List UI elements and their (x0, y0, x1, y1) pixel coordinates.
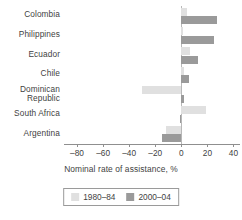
y-axis-category-label: Chile (0, 69, 60, 78)
bar (181, 75, 189, 83)
bar (181, 36, 214, 44)
bar (181, 47, 190, 55)
x-axis-tick (129, 144, 130, 147)
bar (180, 115, 181, 123)
y-axis-category-label: Colombia (0, 10, 60, 19)
chart-legend: 1980–842000–04 (63, 188, 179, 206)
bar (181, 27, 182, 35)
bar (162, 134, 182, 142)
legend-item[interactable]: 1980–84 (71, 192, 115, 202)
bar (181, 95, 184, 103)
x-axis-tick (181, 144, 182, 147)
y-axis-category-label: Ecuador (0, 50, 60, 59)
x-axis-tick (77, 144, 78, 147)
y-axis-category-label: South Africa (0, 109, 60, 118)
bar (181, 8, 186, 16)
y-axis-category-label: Argentina (0, 129, 60, 138)
bar (142, 86, 181, 94)
bar (181, 56, 198, 64)
x-axis-line (64, 144, 240, 145)
x-axis-tick-label: 40 (218, 148, 242, 158)
legend-item[interactable]: 2000–04 (127, 192, 171, 202)
x-axis-tick (103, 144, 104, 147)
bar (181, 67, 184, 75)
chart-container: ColombiaPhilippinesEcuadorChileDominican… (0, 0, 242, 220)
x-axis-tick (155, 144, 156, 147)
bar (181, 106, 206, 114)
y-axis-category-label: Philippines (0, 30, 60, 39)
plot-area (64, 6, 240, 144)
bar (181, 16, 216, 24)
bar (166, 126, 182, 134)
x-axis-title: Nominal rate of assistance, % (0, 164, 242, 174)
legend-label: 2000–04 (139, 192, 171, 202)
x-axis-tick (233, 144, 234, 147)
y-axis-category-label: Dominican Republic (0, 85, 60, 103)
legend-swatch (127, 193, 135, 201)
legend-swatch (71, 193, 79, 201)
legend-label: 1980–84 (83, 192, 115, 202)
y-axis-category-labels: ColombiaPhilippinesEcuadorChileDominican… (0, 0, 62, 150)
x-axis-tick (207, 144, 208, 147)
